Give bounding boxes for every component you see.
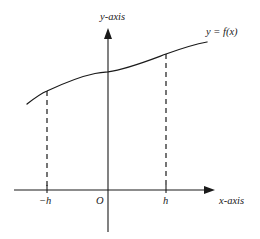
- x-tick-label-negative-h: −h: [39, 196, 51, 207]
- function-curve: [27, 42, 207, 104]
- origin-label: O: [96, 196, 104, 207]
- y-axis-arrowhead: [104, 28, 112, 39]
- function-equation-label: y = f(x): [206, 27, 238, 38]
- x-axis-arrowhead: [204, 186, 215, 194]
- x-axis-label: x-axis: [219, 196, 244, 207]
- y-axis-label: y-axis: [100, 12, 125, 23]
- x-tick-label-h: h: [163, 196, 168, 207]
- function-graph-figure: y-axis x-axis y = f(x) −h O h: [0, 0, 260, 239]
